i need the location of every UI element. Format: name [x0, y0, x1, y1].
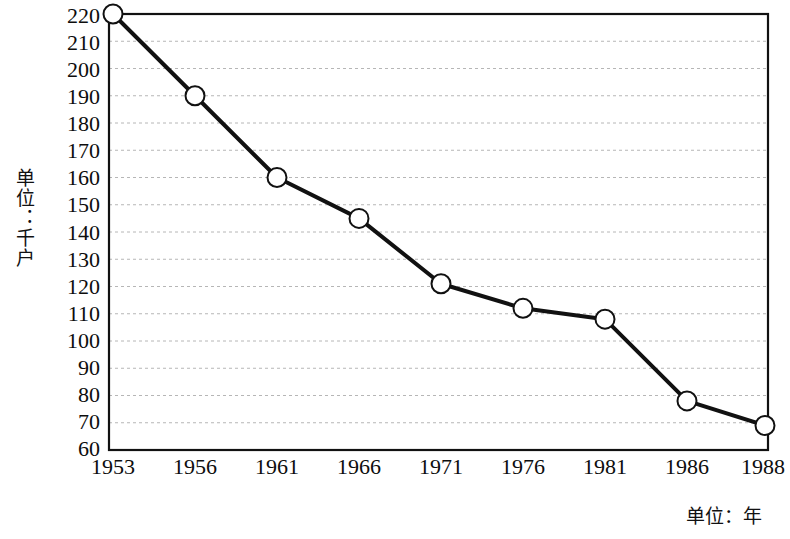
x-tick-label: 1953: [91, 455, 135, 479]
x-tick-label: 1976: [501, 455, 545, 479]
x-axis-title: 单位：年: [686, 506, 762, 528]
y-axis-title: 单位：千户: [4, 168, 34, 268]
x-axis-tick-labels: 1953 1956 1961 1966 1971 1976 1981 1986 …: [0, 0, 790, 539]
x-tick-label: 1966: [337, 455, 381, 479]
x-tick-label: 1961: [255, 455, 299, 479]
x-tick-label: 1988: [741, 455, 785, 479]
x-tick-label: 1956: [173, 455, 217, 479]
x-tick-label: 1986: [665, 455, 709, 479]
x-tick-label: 1981: [583, 455, 627, 479]
line-chart: 220 210 200 190 180 170 160 150 140 130 …: [0, 0, 790, 539]
x-tick-label: 1971: [419, 455, 463, 479]
